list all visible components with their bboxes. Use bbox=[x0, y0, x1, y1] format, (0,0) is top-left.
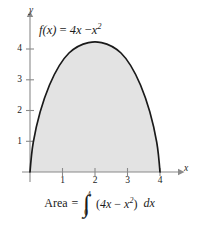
integrand-term-1: 4x bbox=[100, 197, 111, 211]
function-equation-label: f(x) = 4x −x2 bbox=[39, 22, 101, 37]
x-tick-label-3: 3 bbox=[122, 176, 134, 186]
caption-equation-row: Area = ∫ 4 0 (4x − x2) dx bbox=[44, 192, 154, 215]
function-exponent: 2 bbox=[97, 21, 101, 31]
shaded-area-region bbox=[30, 42, 160, 172]
y-tick-label-2: 2 bbox=[10, 106, 22, 116]
function-name: f(x) bbox=[39, 23, 56, 37]
x-tick-label-4: 4 bbox=[154, 176, 166, 186]
y-axis-label: y bbox=[29, 6, 33, 16]
caption-area-word: Area bbox=[44, 196, 67, 211]
x-axis-label: x bbox=[184, 164, 188, 174]
y-tick-label-3: 3 bbox=[10, 75, 22, 85]
y-tick-label-4: 4 bbox=[10, 44, 22, 54]
integral-symbol-group: ∫ 4 0 bbox=[83, 192, 92, 215]
x-tick-label-2: 2 bbox=[89, 176, 101, 186]
differential-dx: dx bbox=[143, 196, 154, 211]
y-tick-label-1: 1 bbox=[10, 137, 22, 147]
integrand-expression: (4x − x2) bbox=[96, 196, 137, 212]
integrand-close-paren: ) bbox=[133, 197, 137, 211]
area-integral-caption: Area = ∫ 4 0 (4x − x2) dx bbox=[0, 192, 199, 215]
integral-upper-limit: 4 bbox=[87, 190, 91, 199]
integral-lower-limit: 0 bbox=[84, 208, 88, 217]
integrand-minus-sign: − bbox=[114, 197, 121, 211]
function-minus-sign: − bbox=[85, 23, 92, 37]
caption-equals-sign: = bbox=[71, 196, 80, 211]
function-equals-sign: = bbox=[59, 23, 66, 37]
x-tick-label-1: 1 bbox=[57, 176, 69, 186]
area-under-curve-figure: y x f(x) = 4x −x2 1 2 3 4 1 2 3 4 Area =… bbox=[0, 0, 199, 227]
function-term-1: 4x bbox=[70, 23, 82, 37]
